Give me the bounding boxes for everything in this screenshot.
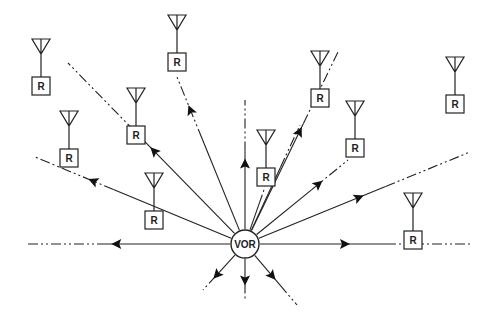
receiver: R bbox=[145, 173, 163, 229]
radial-line bbox=[255, 255, 280, 285]
antenna-icon bbox=[127, 88, 145, 126]
radial-line-dashed bbox=[386, 152, 470, 187]
antenna-icon bbox=[145, 173, 163, 211]
receiver-label: R bbox=[409, 235, 417, 246]
receiver-label: R bbox=[132, 130, 140, 141]
receiver: R bbox=[311, 51, 329, 107]
antenna-icon bbox=[168, 15, 186, 53]
arrow-icon bbox=[184, 103, 197, 116]
arrow-icon bbox=[312, 177, 326, 191]
receiver: R bbox=[168, 15, 186, 71]
radial-line bbox=[259, 187, 386, 239]
receiver: R bbox=[346, 101, 364, 157]
radial-line-dashed bbox=[68, 63, 135, 131]
arrow-icon bbox=[293, 125, 306, 138]
receiver: R bbox=[446, 57, 464, 113]
receiver-label: R bbox=[351, 143, 359, 154]
receiver: R bbox=[60, 111, 78, 167]
antenna-icon bbox=[257, 130, 275, 168]
receiver-label: R bbox=[451, 99, 459, 110]
vor-station: VOR bbox=[231, 230, 259, 258]
antenna-icon bbox=[404, 193, 422, 231]
antenna-icon bbox=[446, 57, 464, 95]
receiver-label: R bbox=[316, 93, 324, 104]
vor-radial-diagram: RRRRRRRRRR VOR bbox=[0, 0, 492, 323]
receivers: RRRRRRRRRR bbox=[32, 15, 464, 249]
receiver-label: R bbox=[37, 81, 45, 92]
antenna-icon bbox=[32, 39, 50, 77]
radials bbox=[25, 52, 470, 305]
antenna-icon bbox=[60, 111, 78, 149]
antenna-icon bbox=[346, 101, 364, 139]
vor-label: VOR bbox=[234, 239, 256, 250]
receiver: R bbox=[32, 39, 50, 95]
arrow-icon bbox=[353, 191, 366, 204]
receiver: R bbox=[404, 193, 422, 249]
receiver-label: R bbox=[150, 215, 158, 226]
receiver-label: R bbox=[262, 172, 270, 183]
radial-line bbox=[202, 138, 239, 230]
arrow-icon bbox=[265, 269, 279, 283]
receiver-label: R bbox=[65, 153, 73, 164]
receiver-label: R bbox=[173, 57, 181, 68]
radial-line bbox=[113, 190, 231, 239]
antenna-icon bbox=[311, 51, 329, 89]
radial-line-dashed bbox=[303, 52, 338, 123]
receiver: R bbox=[127, 88, 145, 144]
receiver: R bbox=[257, 130, 275, 186]
arrow-icon bbox=[86, 174, 99, 187]
radial-line-dashed bbox=[280, 285, 297, 305]
